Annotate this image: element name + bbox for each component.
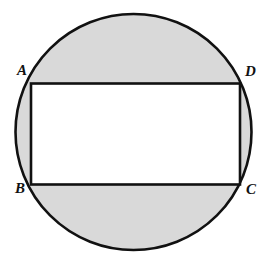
vertex-label-a: A — [17, 63, 27, 78]
geometry-figure: A D B C — [0, 0, 271, 265]
figure-canvas — [0, 0, 271, 265]
vertex-label-b: B — [15, 181, 25, 196]
vertex-label-c: C — [246, 182, 256, 197]
vertex-label-d: D — [245, 64, 256, 79]
rectangle-abcd-shape — [31, 84, 240, 185]
